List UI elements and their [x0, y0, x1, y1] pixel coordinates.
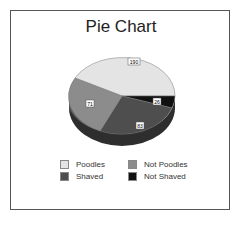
- svg-text:26: 26: [154, 99, 160, 105]
- svg-text:190: 190: [130, 59, 139, 65]
- data-label-not-shaved: 26: [153, 98, 161, 105]
- legend-label: Not Poodles: [144, 160, 188, 169]
- data-label-poodles: 190: [128, 58, 140, 65]
- legend-item-shaved: Shaved: [60, 172, 103, 181]
- legend-swatch: [60, 160, 69, 169]
- legend-label: Shaved: [76, 172, 103, 181]
- legend-swatch: [128, 160, 137, 169]
- legend-label: Poodles: [76, 160, 105, 169]
- data-label-shaved: 83: [136, 122, 144, 129]
- legend-item-not-poodles: Not Poodles: [128, 160, 188, 169]
- data-label-not-poodles: 71: [86, 100, 94, 107]
- legend-label: Not Shaved: [144, 172, 186, 181]
- legend-swatch: [60, 172, 69, 181]
- pie-plot: 190 71 83 26: [0, 0, 242, 226]
- legend-item-not-shaved: Not Shaved: [128, 172, 186, 181]
- svg-text:83: 83: [137, 123, 143, 129]
- svg-text:71: 71: [87, 101, 93, 107]
- legend-item-poodles: Poodles: [60, 160, 105, 169]
- legend-swatch: [128, 172, 137, 181]
